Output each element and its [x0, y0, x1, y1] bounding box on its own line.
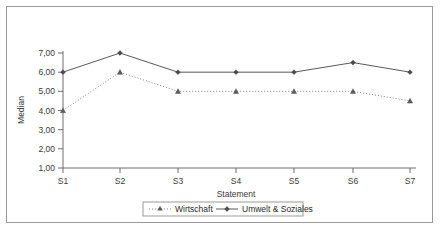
diamond-marker: [234, 70, 239, 75]
y-tick-label-4: 4,00: [38, 106, 55, 116]
x-tick-label-s3: S3: [173, 176, 184, 186]
triangle-marker: [117, 70, 122, 75]
series-line: [63, 53, 410, 72]
data-series-layer: [60, 51, 412, 113]
chart-legend[interactable]: Wirtschaft Umwelt & Soziales: [143, 202, 313, 216]
x-axis-ticks: [63, 168, 410, 173]
x-tick-label-s1: S1: [58, 176, 69, 186]
diamond-marker: [176, 70, 181, 75]
y-tick-label-3: 3,00: [38, 125, 55, 135]
y-tick-label-5: 5,00: [38, 86, 55, 96]
chart-figure: 7,00 6,00 5,00 4,00 3,00 2,00 1,00 Media…: [0, 0, 440, 230]
y-tick-label-7: 7,00: [38, 48, 55, 58]
x-tick-label-s7: S7: [405, 176, 416, 186]
line-chart: 7,00 6,00 5,00 4,00 3,00 2,00 1,00 Media…: [0, 0, 440, 230]
x-tick-label-s4: S4: [231, 176, 242, 186]
y-tick-label-2: 2,00: [38, 144, 55, 154]
legend-label-umwelt: Umwelt & Soziales: [242, 204, 313, 214]
series-umwelt-soziales: [61, 51, 413, 75]
diamond-marker: [408, 70, 413, 75]
y-tick-label-6: 6,00: [38, 67, 55, 77]
diamond-marker: [292, 70, 297, 75]
x-tick-label-s5: S5: [289, 176, 300, 186]
y-axis-title: Median: [16, 96, 26, 124]
series-wirtschaft: [60, 70, 412, 113]
diamond-marker: [351, 60, 356, 65]
x-tick-label-s6: S6: [348, 176, 359, 186]
triangle-marker: [175, 89, 180, 94]
x-tick-label-s2: S2: [115, 176, 126, 186]
legend-label-wirtschaft: Wirtschaft: [175, 204, 213, 214]
diamond-marker: [118, 51, 123, 56]
diamond-marker: [61, 70, 66, 75]
y-tick-label-1: 1,00: [38, 163, 55, 173]
x-axis-title: Statement: [217, 189, 256, 199]
